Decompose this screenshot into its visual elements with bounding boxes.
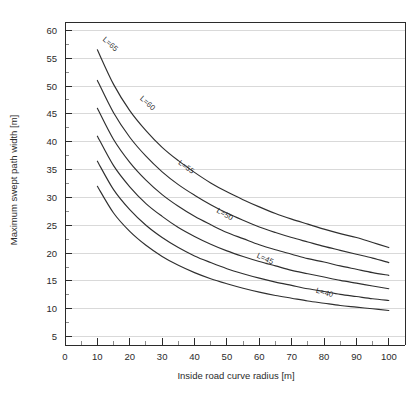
y-axis-title: Maximum swept path width [m]	[8, 115, 19, 245]
x-tick-label: 50	[222, 351, 233, 362]
chart-figure: 0102030405060708090100 51015202530354045…	[0, 0, 419, 394]
swept-path-width-chart: 0102030405060708090100 51015202530354045…	[0, 0, 419, 394]
curve-labels: L=65L=60L=55L=50L=45L=40	[101, 35, 335, 299]
y-tick-label: 15	[46, 275, 57, 286]
x-tick-label: 100	[381, 351, 397, 362]
curve-l55	[97, 108, 388, 275]
x-tick-label: 10	[92, 351, 103, 362]
y-tick-label: 5	[52, 331, 57, 342]
y-tick-label: 55	[46, 53, 57, 64]
curve-label-l40: L=40	[315, 286, 334, 299]
y-tick-label: 25	[46, 220, 57, 231]
x-axis-title: Inside road curve radius [m]	[177, 370, 294, 381]
y-tick-label: 40	[46, 136, 57, 147]
curve-l40	[97, 186, 388, 310]
y-tick-label: 35	[46, 164, 57, 175]
data-curves	[97, 50, 388, 311]
x-tick-label: 90	[351, 351, 362, 362]
minor-tick-marks	[65, 44, 373, 345]
x-tick-label: 20	[124, 351, 135, 362]
curve-l45	[97, 161, 388, 300]
y-tick-label: 45	[46, 108, 57, 119]
curve-label-l50: L=50	[215, 206, 235, 223]
curve-label-l60: L=60	[138, 94, 157, 112]
curve-l65	[97, 50, 388, 248]
grid-lines	[65, 30, 405, 336]
x-tick-label: 70	[286, 351, 297, 362]
y-tick-label: 60	[46, 25, 57, 36]
curve-label-l55: L=55	[177, 158, 196, 176]
x-tick-label: 60	[254, 351, 265, 362]
curve-l50	[97, 136, 388, 289]
curve-label-l65: L=65	[101, 35, 120, 53]
y-axis-tick-labels: 51015202530354045505560	[46, 25, 57, 342]
x-tick-label: 40	[189, 351, 200, 362]
y-tick-label: 30	[46, 192, 57, 203]
x-tick-label: 80	[319, 351, 330, 362]
y-tick-label: 10	[46, 303, 57, 314]
x-tick-label: 30	[157, 351, 168, 362]
clipped-caption	[0, 386, 419, 394]
y-tick-label: 20	[46, 248, 57, 259]
x-axis-tick-labels: 0102030405060708090100	[62, 351, 396, 362]
y-tick-label: 50	[46, 81, 57, 92]
x-tick-label: 0	[62, 351, 67, 362]
major-tick-marks	[65, 30, 389, 345]
